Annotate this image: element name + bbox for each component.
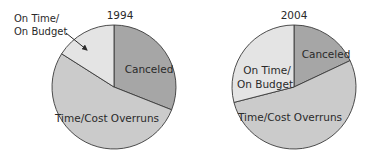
pie-2004-ontime-label-line2: On Budget bbox=[237, 78, 293, 90]
pie-2004-canceled-label: Canceled bbox=[302, 48, 351, 60]
pie-1994-slices bbox=[52, 25, 176, 149]
pie-1994-title: 1994 bbox=[107, 9, 134, 21]
pie-2004-title: 2004 bbox=[281, 9, 308, 21]
pie-2004-overruns-label: Time/Cost Overruns bbox=[237, 111, 342, 123]
pie-1994-overruns-label: Time/Cost Overruns bbox=[54, 112, 159, 124]
pie-2004: 2004 Canceled On Time/ On Budget Time/Co… bbox=[232, 9, 356, 149]
pie-1994: 1994 On Time/ On Budget Canceled Time/Co… bbox=[14, 9, 176, 149]
pie-1994-ontime-label-line2: On Budget bbox=[14, 26, 67, 37]
pie-charts: 1994 On Time/ On Budget Canceled Time/Co… bbox=[0, 0, 369, 158]
pie-2004-ontime-label-line1: On Time/ bbox=[243, 64, 291, 76]
pie-1994-canceled-label: Canceled bbox=[125, 63, 174, 75]
pie-1994-ontime-label-line1: On Time/ bbox=[14, 13, 60, 24]
